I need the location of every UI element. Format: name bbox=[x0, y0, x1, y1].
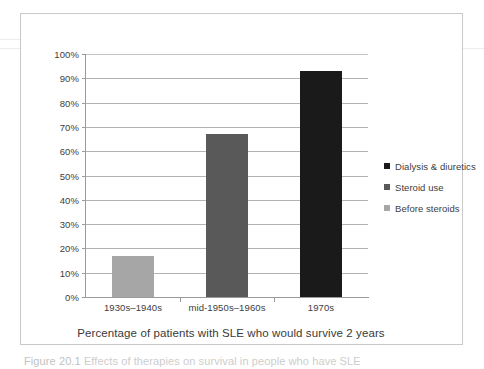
chart-legend: Dialysis & diureticsSteroid useBefore st… bbox=[384, 157, 484, 220]
y-axis-tick-label: 70% bbox=[60, 121, 79, 132]
y-axis-tick-mark bbox=[82, 54, 86, 55]
y-axis-tick-label: 10% bbox=[60, 267, 79, 278]
legend-swatch-icon bbox=[384, 184, 390, 190]
legend-label: Steroid use bbox=[395, 182, 444, 193]
y-axis-tick-mark bbox=[82, 78, 86, 79]
x-axis-title: Percentage of patients with SLE who woul… bbox=[41, 327, 421, 339]
y-axis-tick-label: 0% bbox=[65, 292, 79, 303]
scan-artifact-line bbox=[462, 48, 484, 49]
x-axis-tick-label: 1970s bbox=[308, 302, 334, 313]
y-axis-tick-mark bbox=[82, 200, 86, 201]
y-axis-tick-mark bbox=[82, 248, 86, 249]
bar bbox=[300, 71, 342, 297]
y-axis-tick-mark bbox=[82, 103, 86, 104]
y-axis-tick-label: 30% bbox=[60, 219, 79, 230]
legend-swatch-icon bbox=[384, 163, 390, 169]
y-axis-tick-mark bbox=[82, 273, 86, 274]
x-axis-tick-labels: 1930s–1940smid-1950s–1960s1970s bbox=[86, 302, 368, 318]
x-axis-tick-label: 1930s–1940s bbox=[104, 302, 162, 313]
y-axis-tick-mark bbox=[82, 151, 86, 152]
legend-swatch-icon bbox=[384, 205, 390, 211]
legend-label: Dialysis & diuretics bbox=[395, 161, 476, 172]
y-axis-tick-label: 50% bbox=[60, 170, 79, 181]
figure-caption-number: Figure 20.1 bbox=[24, 355, 81, 367]
y-axis-tick-label: 40% bbox=[60, 194, 79, 205]
chart-plot-area: 100%90%80%70%60%50%40%30%20%10%0% bbox=[86, 54, 368, 297]
y-axis-tick-mark bbox=[82, 297, 86, 298]
x-axis-line bbox=[85, 297, 369, 298]
scan-artifact-line bbox=[0, 39, 22, 40]
legend-item: Dialysis & diuretics bbox=[384, 157, 484, 175]
legend-label: Before steroids bbox=[395, 203, 460, 214]
figure-caption: Figure 20.1 Effects of therapies on surv… bbox=[24, 355, 464, 369]
figure-frame: 100%90%80%70%60%50%40%30%20%10%0% 1930s–… bbox=[20, 13, 463, 345]
figure-caption-text: Effects of therapies on survival in peop… bbox=[84, 355, 361, 367]
scan-artifact-line bbox=[0, 48, 22, 49]
y-axis-tick-label: 60% bbox=[60, 146, 79, 157]
bar bbox=[206, 134, 248, 297]
legend-item: Before steroids bbox=[384, 199, 484, 217]
y-axis-tick-label: 20% bbox=[60, 243, 79, 254]
y-axis-tick-label: 100% bbox=[54, 49, 79, 60]
y-axis-tick-mark bbox=[82, 224, 86, 225]
bar bbox=[112, 256, 154, 297]
legend-item: Steroid use bbox=[384, 178, 484, 196]
gridline bbox=[86, 54, 368, 55]
x-axis-tick-label: mid-1950s–1960s bbox=[188, 302, 265, 313]
y-axis-tick-label: 80% bbox=[60, 97, 79, 108]
y-axis-tick-label: 90% bbox=[60, 73, 79, 84]
y-axis-tick-mark bbox=[82, 176, 86, 177]
y-axis-tick-mark bbox=[82, 127, 86, 128]
